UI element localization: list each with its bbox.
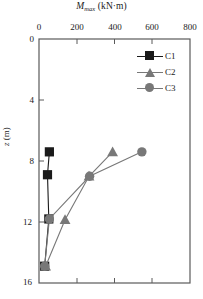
- chart-figure: Mmax (kN·m) z (m) 0 200 400 600 800 0 4 …: [0, 0, 203, 299]
- series-c3: [40, 147, 147, 271]
- series-c2: [40, 146, 118, 270]
- circle-marker-icon: [45, 214, 54, 223]
- square-marker-icon: [43, 170, 52, 179]
- legend-label-c2: C2: [163, 68, 176, 77]
- plot-area: [0, 0, 203, 299]
- square-marker-icon: [45, 147, 54, 156]
- legend-label-c3: C3: [163, 84, 176, 93]
- legend-entry-c3: C3: [137, 80, 176, 96]
- circle-marker-icon: [137, 147, 146, 156]
- legend-entry-c1: C1: [137, 48, 176, 64]
- legend-key-c2: [137, 65, 163, 79]
- legend-key-c3: [137, 81, 163, 95]
- data-series-group: [40, 146, 147, 270]
- triangle-marker-icon: [107, 146, 118, 156]
- square-marker-icon: [145, 51, 154, 60]
- circle-marker-icon: [85, 172, 94, 181]
- series-line-c2: [46, 152, 113, 266]
- triangle-marker-icon: [145, 68, 155, 77]
- triangle-marker-icon: [60, 214, 71, 224]
- legend-entry-c2: C2: [137, 64, 176, 80]
- legend-key-c1: [137, 49, 163, 63]
- chart-legend: C1 C2 C3: [137, 48, 176, 96]
- series-line-c1: [45, 152, 50, 266]
- axis-ticks: [39, 39, 152, 283]
- series-line-c3: [45, 152, 142, 266]
- circle-marker-icon: [145, 83, 154, 92]
- legend-label-c1: C1: [163, 52, 176, 61]
- circle-marker-icon: [40, 262, 49, 271]
